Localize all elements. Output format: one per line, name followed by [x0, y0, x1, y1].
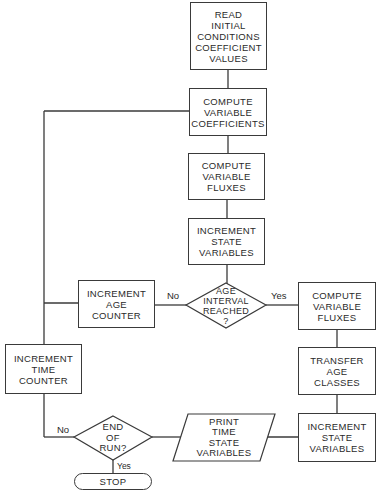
- node-text: FLUXES: [207, 182, 246, 193]
- node-text: VARIABLE: [313, 301, 361, 312]
- node-text: VARIABLES: [199, 247, 254, 258]
- node-text: TIME: [32, 364, 56, 375]
- compute-variable-coefficients-box: COMPUTE VARIABLE COEFFICIENTS: [189, 88, 267, 136]
- print-time-state-variables: PRINT TIME STATE VARIABLES: [180, 415, 268, 460]
- node-text: INCREMENT: [14, 353, 73, 364]
- read-initial-conditions-box: READ INITIAL CONDITIONS COEFFICIENT VALU…: [190, 2, 267, 70]
- end-yes-label: Yes: [117, 461, 131, 471]
- stop-terminal: STOP: [74, 473, 152, 490]
- node-text: CLASSES: [314, 377, 360, 388]
- node-text: VARIABLES: [310, 443, 365, 454]
- node-text: COMPUTE: [203, 96, 253, 107]
- age-yes-label: Yes: [271, 290, 287, 301]
- node-text: COMPUTE: [312, 290, 362, 301]
- node-text: TIME: [212, 427, 236, 438]
- end-no-label: No: [57, 424, 69, 435]
- node-text: AGE: [327, 366, 348, 377]
- node-text: AGE: [216, 286, 236, 296]
- node-text: INCREMENT: [307, 421, 366, 432]
- node-text: STOP: [100, 476, 127, 487]
- node-text: RUN?: [99, 443, 126, 454]
- node-text: INCREMENT: [87, 288, 146, 299]
- node-text: REACHED: [203, 306, 249, 316]
- node-text: AGE: [106, 299, 127, 310]
- node-text: TRANSFER: [310, 355, 364, 366]
- node-text: COEFFICIENT: [195, 42, 262, 53]
- age-no-label: No: [167, 290, 179, 301]
- node-text: READ: [215, 9, 243, 20]
- node-text: FLUXES: [318, 312, 357, 323]
- compute-variable-fluxes-box: COMPUTE VARIABLE FLUXES: [188, 153, 265, 200]
- node-text: COEFFICIENTS: [191, 118, 264, 129]
- node-text: INITIAL: [211, 20, 245, 31]
- node-text: INTERVAL: [203, 296, 249, 306]
- node-text: VALUES: [209, 53, 248, 64]
- node-text: COMPUTE: [202, 160, 252, 171]
- node-text: STATE: [322, 432, 353, 443]
- increment-age-counter-box: INCREMENT AGE COUNTER: [78, 280, 155, 328]
- transfer-age-classes-box: TRANSFER AGE CLASSES: [298, 347, 376, 395]
- compute-variable-fluxes-age-box: COMPUTE VARIABLE FLUXES: [298, 282, 376, 330]
- node-text: VARIABLE: [202, 171, 250, 182]
- node-text: STATE: [211, 236, 242, 247]
- node-text: COUNTER: [92, 310, 141, 321]
- node-text: INCREMENT: [197, 225, 256, 236]
- node-text: VARIABLE: [204, 107, 252, 118]
- age-interval-decision: AGE INTERVAL REACHED ?: [186, 284, 266, 328]
- end-of-run-decision: END OF RUN?: [84, 418, 142, 458]
- node-text: COUNTER: [19, 375, 68, 386]
- node-text: ?: [223, 316, 228, 326]
- node-text: VARIABLES: [197, 448, 252, 459]
- increment-state-variables-age-box: INCREMENT STATE VARIABLES: [298, 413, 376, 462]
- node-text: CONDITIONS: [197, 31, 260, 42]
- increment-time-counter-box: INCREMENT TIME COUNTER: [5, 344, 82, 394]
- increment-state-variables-box: INCREMENT STATE VARIABLES: [188, 218, 265, 265]
